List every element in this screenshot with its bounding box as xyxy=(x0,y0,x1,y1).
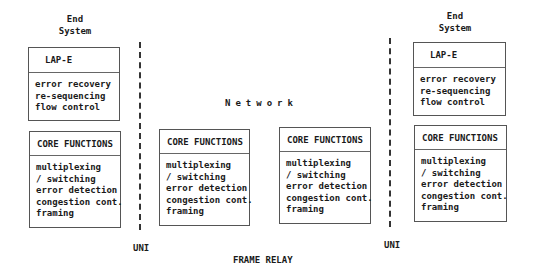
network-node-2-item: framing xyxy=(286,204,370,216)
right-core-item: framing xyxy=(421,202,506,214)
left-uni-label: UNI xyxy=(133,243,149,253)
right-lap-e-item: flow control xyxy=(420,97,505,109)
right-core-header: CORE FUNCTIONS xyxy=(415,126,506,150)
left-core-header: CORE FUNCTIONS xyxy=(30,132,120,156)
network-node-2-core-box: CORE FUNCTIONS multiplexing / switching … xyxy=(279,127,371,224)
network-node-2-item: multiplexing xyxy=(286,158,370,170)
right-core-functions: multiplexing / switching error detection… xyxy=(415,150,506,214)
right-core-item: congestion cont. xyxy=(421,191,506,203)
left-uni-boundary-line xyxy=(139,42,141,230)
left-lap-e-item: re-sequencing xyxy=(35,91,119,103)
left-core-item: congestion cont. xyxy=(36,197,120,209)
left-lap-e-header: LAP-E xyxy=(29,48,119,73)
right-end-system-title: End System xyxy=(420,10,490,34)
network-node-2-item: congestion cont. xyxy=(286,193,370,205)
left-lap-e-item: flow control xyxy=(35,102,119,114)
left-core-item: / switching xyxy=(36,174,120,186)
network-node-2-functions: multiplexing / switching error detection… xyxy=(280,152,370,216)
right-core-item: multiplexing xyxy=(421,156,506,168)
network-node-1-core-box: CORE FUNCTIONS multiplexing / switching … xyxy=(159,129,250,226)
right-uni-boundary-line xyxy=(389,38,391,227)
left-end-system-title-line1: End xyxy=(40,13,110,25)
left-core-item: multiplexing xyxy=(36,162,120,174)
network-node-1-item: multiplexing xyxy=(166,160,249,172)
left-end-system-title-line2: System xyxy=(40,25,110,37)
network-node-1-functions: multiplexing / switching error detection… xyxy=(160,154,249,218)
right-lap-e-header: LAP-E xyxy=(414,43,505,68)
left-core-item: framing xyxy=(36,208,120,220)
right-uni-label: UNI xyxy=(384,240,400,250)
left-end-system-title: End System xyxy=(40,13,110,37)
network-node-1-item: congestion cont. xyxy=(166,195,249,207)
network-node-1-item: / switching xyxy=(166,172,249,184)
right-lap-e-functions: error recovery re-sequencing flow contro… xyxy=(414,68,505,109)
left-lap-e-box: LAP-E error recovery re-sequencing flow … xyxy=(28,47,120,121)
network-node-2-header: CORE FUNCTIONS xyxy=(280,128,370,152)
network-node-2-item: error detection xyxy=(286,181,370,193)
right-lap-e-item: re-sequencing xyxy=(420,86,505,98)
left-core-functions: multiplexing / switching error detection… xyxy=(30,156,120,220)
network-label: Network xyxy=(225,98,298,108)
right-end-system-title-line1: End xyxy=(420,10,490,22)
right-core-item: error detection xyxy=(421,179,506,191)
network-node-2-item: / switching xyxy=(286,170,370,182)
left-lap-e-functions: error recovery re-sequencing flow contro… xyxy=(29,73,119,114)
right-lap-e-item: error recovery xyxy=(420,74,505,86)
left-lap-e-item: error recovery xyxy=(35,79,119,91)
right-core-functions-box: CORE FUNCTIONS multiplexing / switching … xyxy=(414,125,507,222)
right-end-system-title-line2: System xyxy=(420,22,490,34)
network-node-1-item: error detection xyxy=(166,183,249,195)
network-node-1-item: framing xyxy=(166,206,249,218)
left-core-item: error detection xyxy=(36,185,120,197)
left-core-functions-box: CORE FUNCTIONS multiplexing / switching … xyxy=(29,131,121,228)
network-node-1-header: CORE FUNCTIONS xyxy=(160,130,249,154)
diagram-title: FRAME RELAY xyxy=(233,255,293,265)
right-lap-e-box: LAP-E error recovery re-sequencing flow … xyxy=(413,42,506,116)
right-core-item: / switching xyxy=(421,168,506,180)
